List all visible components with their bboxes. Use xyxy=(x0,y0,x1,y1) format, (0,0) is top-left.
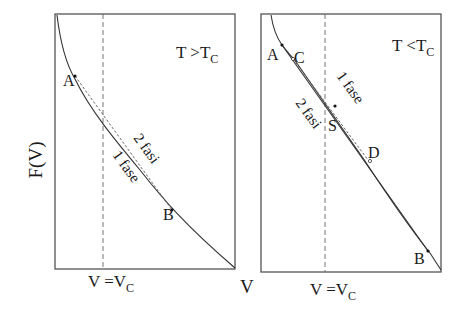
label-b-left: B xyxy=(163,206,174,223)
vc-label-right: V =VC xyxy=(310,280,356,303)
label-one-phase-left: 1 fase xyxy=(110,147,144,185)
label-two-phase-right: 2 fasi xyxy=(293,95,325,131)
label-c-right: C xyxy=(294,49,305,66)
label-s-right: S xyxy=(328,117,337,134)
panel-left: T >TC A B 2 fasi 1 fase V =VC xyxy=(55,14,235,295)
panel-right: T <TC A C S D B 1 fase 2 fasi V =VC xyxy=(261,14,441,303)
label-one-phase-right: 1 fase xyxy=(334,68,368,106)
free-energy-diagram: F(V) T >TC A B 2 fasi 1 fase V =VC V T <… xyxy=(0,0,456,313)
y-axis-label: F(V) xyxy=(25,142,47,179)
common-tangent-right xyxy=(282,45,428,251)
common-tangent-left xyxy=(75,76,172,210)
label-b-right: B xyxy=(414,250,425,267)
label-a-left: A xyxy=(63,72,75,89)
label-a-right: A xyxy=(267,46,279,63)
condition-label-right: T <TC xyxy=(392,36,434,59)
point-b-right xyxy=(426,249,429,252)
label-two-phase-left: 2 fasi xyxy=(131,130,163,166)
label-d-right: D xyxy=(368,144,380,161)
point-a-right xyxy=(280,43,283,46)
vc-label-left: V =VC xyxy=(88,272,134,295)
x-axis-label: V xyxy=(240,276,254,297)
point-s-right xyxy=(333,104,336,107)
condition-label-left: T >TC xyxy=(176,43,218,66)
